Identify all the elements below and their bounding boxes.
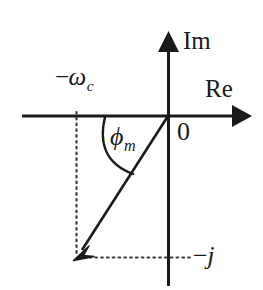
phase-margin-diagram: Im Re 0 −ωc ϕm −j [0, 0, 263, 290]
phase-margin-subscript: m [124, 137, 136, 154]
cutoff-frequency-label: −ωc [55, 64, 94, 93]
phase-margin-phi: ϕ [110, 122, 123, 151]
minus-j-symbol: j [207, 241, 214, 270]
cutoff-frequency-omega: ω [69, 63, 87, 90]
minus-j-minus-sign: − [193, 241, 207, 270]
cutoff-frequency-minus-sign: − [55, 63, 69, 90]
imaginary-axis [158, 31, 179, 286]
real-axis [22, 105, 252, 127]
imaginary-axis-arrowhead-icon [158, 31, 179, 52]
origin-label: 0 [177, 119, 190, 145]
cutoff-frequency-subscript: c [87, 77, 94, 94]
imaginary-axis-label: Im [183, 28, 211, 53]
minus-j-label: −j [193, 243, 214, 269]
real-axis-label: Re [205, 76, 233, 101]
real-axis-arrowhead-icon [232, 105, 252, 127]
phase-margin-label: ϕm [110, 124, 136, 154]
